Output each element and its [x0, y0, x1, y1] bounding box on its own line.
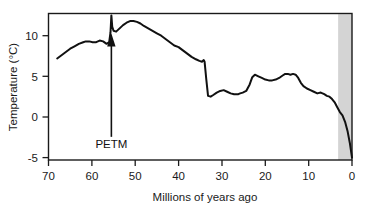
y-tick-label-5: 5 [32, 71, 38, 83]
x-axis-title: Millions of years ago [153, 191, 258, 203]
x-tick-label-10: 10 [302, 170, 315, 182]
temperature-history-chart: 70 60 50 40 30 20 10 0 10 5 0 -5 Tempera… [0, 0, 370, 213]
x-tick-label-0: 0 [349, 170, 355, 182]
y-tick-label-10: 10 [25, 30, 38, 42]
y-tick-label-0: 0 [32, 111, 38, 123]
x-tick-label-50: 50 [129, 170, 142, 182]
y-axis-title: Temperature (°C) [7, 43, 19, 131]
x-tick-label-30: 30 [216, 170, 229, 182]
x-tick-label-60: 60 [86, 170, 99, 182]
x-tick-label-70: 70 [42, 170, 55, 182]
x-tick-label-20: 20 [259, 170, 272, 182]
x-tick-label-40: 40 [172, 170, 185, 182]
petm-label: PETM [95, 138, 127, 150]
y-tick-label-minus5: -5 [28, 152, 38, 164]
chart-page: 70 60 50 40 30 20 10 0 10 5 0 -5 Tempera… [0, 0, 370, 213]
